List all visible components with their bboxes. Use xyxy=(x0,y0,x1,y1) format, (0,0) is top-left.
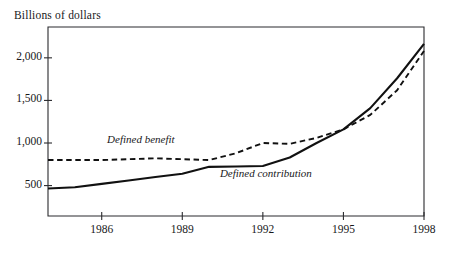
x-axis-tick-label: 1986 xyxy=(79,223,125,235)
x-axis-tick-label: 1998 xyxy=(401,223,447,235)
series-label-defined-contribution: Defined contribution xyxy=(220,167,312,179)
chart-figure: Billions of dollars 5001,0001,5002,000 1… xyxy=(0,0,452,255)
y-axis-tick-label: 2,000 xyxy=(0,50,42,62)
series-line-defined-benefit xyxy=(48,51,424,160)
y-axis-tick-label: 1,500 xyxy=(0,92,42,104)
y-axis-tick-label: 500 xyxy=(0,178,42,190)
x-axis-tick-label: 1992 xyxy=(240,223,286,235)
plot-frame-border xyxy=(48,27,424,216)
plot-frame xyxy=(48,27,424,216)
x-axis-tick-label: 1989 xyxy=(159,223,205,235)
plot-area xyxy=(0,0,452,255)
series-label-defined-benefit: Defined benefit xyxy=(107,133,175,145)
y-axis-tick-label: 1,000 xyxy=(0,135,42,147)
x-axis-tick-label: 1995 xyxy=(320,223,366,235)
